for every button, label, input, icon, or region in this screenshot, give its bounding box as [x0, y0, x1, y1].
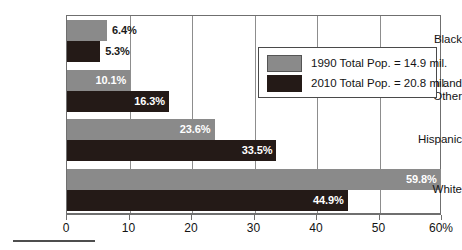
bar-value-label: 33.5% [67, 140, 276, 161]
bar-value-label: 59.8% [67, 169, 441, 190]
bar-value-label: 10.1% [67, 70, 130, 91]
category-label-line: Black [400, 33, 462, 46]
legend-swatch-2010 [267, 75, 302, 92]
category-label: Hispanic [400, 133, 462, 146]
bar-value-label: 23.6% [67, 119, 215, 140]
legend-label-1990: 1990 Total Pop. = 14.9 mil. [311, 55, 447, 72]
category-label: White [400, 183, 462, 196]
x-tick [316, 215, 317, 220]
category-label-line: White [400, 183, 462, 196]
category-label-line: Hispanic [400, 133, 462, 146]
x-tick-label: 10 [122, 221, 135, 235]
plot-area: 6.4%5.3%10.1%16.3%23.6%33.5%59.8%44.9% [66, 15, 441, 214]
bar-chart: 6.4%5.3%10.1%16.3%23.6%33.5%59.8%44.9% B… [0, 0, 462, 250]
legend-swatch-1990 [267, 55, 302, 72]
x-tick-label: 20 [184, 221, 197, 235]
x-tick [441, 215, 442, 220]
x-tick [66, 215, 67, 220]
bar-value-label: 6.4% [112, 20, 137, 41]
x-tick-label: 60% [429, 221, 453, 235]
x-tick-label: 40 [309, 221, 322, 235]
x-tick [191, 215, 192, 220]
legend: 1990 Total Pop. = 14.9 mil. 2010 Total P… [258, 47, 437, 98]
bar [67, 41, 100, 62]
x-tick [129, 215, 130, 220]
x-tick [379, 215, 380, 220]
bar-value-label: 44.9% [67, 190, 348, 211]
bar-value-label: 5.3% [105, 41, 130, 62]
page-rule-artifact [13, 240, 95, 242]
x-tick [254, 215, 255, 220]
bar [67, 20, 107, 41]
bar-value-label: 16.3% [67, 91, 169, 112]
x-tick-label: 50 [372, 221, 385, 235]
x-tick-label: 0 [63, 221, 70, 235]
legend-label-2010: 2010 Total Pop. = 20.8 mil. [311, 75, 447, 92]
x-tick-label: 30 [247, 221, 260, 235]
category-label: Black [400, 33, 462, 46]
